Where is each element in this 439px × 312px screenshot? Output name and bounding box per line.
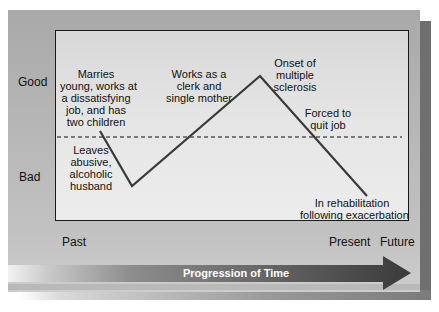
event-leaves: Leaves abusive, alcoholic husband bbox=[66, 144, 116, 192]
event-onset-line2: multiple bbox=[270, 69, 320, 81]
event-onset-line1: Onset of bbox=[270, 57, 320, 69]
life-trajectory-line bbox=[100, 76, 367, 196]
event-forced-line2: quit job bbox=[303, 119, 353, 131]
event-leaves-line3: alcoholic bbox=[66, 168, 116, 180]
event-rehab: In rehabilitation following exacerbation bbox=[300, 197, 404, 221]
event-marries-line2: young, works at bbox=[60, 80, 132, 92]
event-rehab-line1: In rehabilitation bbox=[300, 197, 404, 209]
event-works-line3: single mother bbox=[166, 92, 232, 104]
x-label-past: Past bbox=[62, 235, 86, 249]
event-forced-line1: Forced to bbox=[303, 107, 353, 119]
event-onset-line3: sclerosis bbox=[270, 81, 320, 93]
event-marries-line4: job, and has bbox=[60, 104, 132, 116]
event-works-line2: clerk and bbox=[166, 80, 232, 92]
event-marries-line3: a dissatisfying bbox=[60, 92, 132, 104]
event-leaves-line4: husband bbox=[66, 180, 116, 192]
event-marries: Marries young, works at a dissatisfying … bbox=[60, 68, 132, 128]
event-forced: Forced to quit job bbox=[303, 107, 353, 131]
event-leaves-line2: abusive, bbox=[66, 156, 116, 168]
event-works: Works as a clerk and single mother bbox=[166, 68, 232, 104]
event-marries-line5: two children bbox=[60, 116, 132, 128]
event-works-line1: Works as a bbox=[166, 68, 232, 80]
event-rehab-line2: following exacerbation bbox=[300, 209, 404, 221]
y-label-good: Good bbox=[18, 75, 47, 89]
event-onset: Onset of multiple sclerosis bbox=[270, 57, 320, 93]
event-marries-line1: Marries bbox=[60, 68, 132, 80]
event-leaves-line1: Leaves bbox=[66, 144, 116, 156]
progression-of-time-label: Progression of Time bbox=[183, 264, 289, 282]
y-label-bad: Bad bbox=[19, 170, 40, 184]
x-label-present: Present bbox=[329, 235, 370, 249]
x-label-future: Future bbox=[380, 235, 415, 249]
